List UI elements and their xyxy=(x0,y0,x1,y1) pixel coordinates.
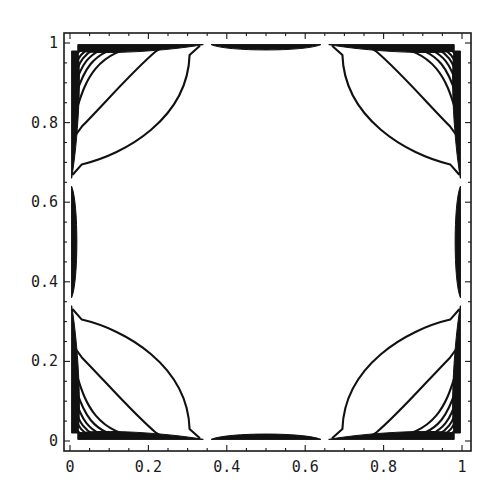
y-tick-label: 0.6 xyxy=(31,193,58,211)
x-tick-label: 0.4 xyxy=(213,458,240,476)
edge-lens-top xyxy=(211,45,321,50)
edge-band xyxy=(72,306,80,433)
y-axis-tick-labels: 00.20.40.60.81 xyxy=(31,34,58,450)
y-tick-label: 1 xyxy=(49,34,58,52)
edge-lens-bottom xyxy=(211,434,321,439)
x-tick-label: 0.6 xyxy=(292,458,319,476)
contour-lines xyxy=(72,45,461,440)
edge-band xyxy=(453,51,461,178)
corner-contour-line xyxy=(333,310,459,438)
edge-band xyxy=(78,45,204,53)
edge-lens-regions xyxy=(72,45,461,440)
edge-band xyxy=(329,431,455,439)
x-tick-label: 0.2 xyxy=(135,458,162,476)
y-tick-label: 0.4 xyxy=(31,273,58,291)
axis-ticks xyxy=(64,33,471,451)
contour-plot: 00.20.40.60.81 00.20.40.60.81 xyxy=(0,0,501,496)
x-axis-tick-labels: 00.20.40.60.81 xyxy=(65,458,466,476)
edge-lens-right xyxy=(455,186,460,297)
plot-frame xyxy=(64,33,471,451)
x-tick-label: 0.8 xyxy=(370,458,397,476)
edge-lens-left xyxy=(72,186,77,297)
x-tick-label: 1 xyxy=(457,458,466,476)
edge-band xyxy=(453,306,461,433)
x-tick-label: 0 xyxy=(65,458,74,476)
edge-band xyxy=(78,431,204,439)
edge-band xyxy=(72,51,80,178)
y-tick-label: 0.8 xyxy=(31,114,58,132)
y-tick-label: 0.2 xyxy=(31,352,58,370)
corner-contour-line xyxy=(73,310,199,438)
y-tick-label: 0 xyxy=(49,432,58,450)
edge-band xyxy=(329,45,455,53)
corner-contour-line xyxy=(333,46,459,174)
plot-border xyxy=(64,33,471,451)
corner-contour-line xyxy=(73,46,199,174)
